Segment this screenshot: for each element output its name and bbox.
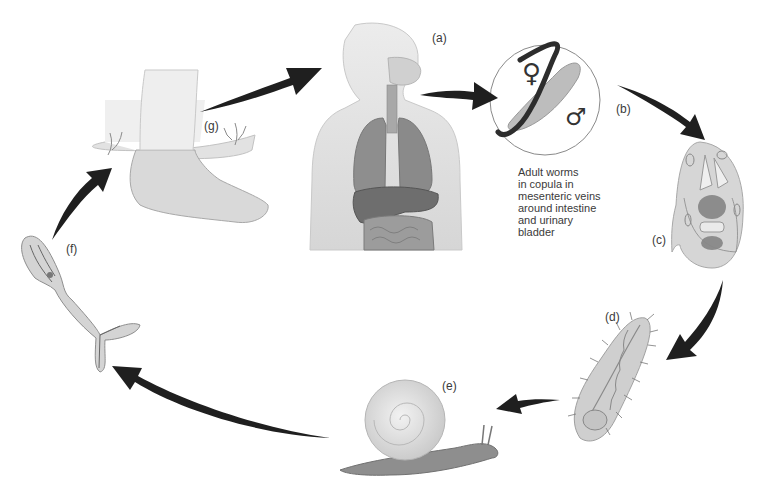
stage-label-a: (a): [432, 32, 447, 44]
stage-label-f: (f): [66, 243, 77, 255]
adult-worms-caption: Adult worms in copula in mesenteric vein…: [518, 166, 638, 238]
caption-line: bladder: [518, 226, 638, 238]
arrow-f-to-g: [52, 168, 112, 240]
arrow-c-to-d: [666, 280, 723, 360]
adult-worms-figure: ♀ ♂: [490, 44, 600, 155]
caption-line: in copula in: [518, 178, 638, 190]
cercaria-figure: [22, 236, 140, 372]
egg-figure: [672, 142, 744, 268]
stage-label-e: (e): [442, 380, 457, 392]
arrow-g-to-a: [200, 68, 322, 112]
caption-line: and urinary: [518, 214, 638, 226]
life-cycle-diagram: ♀ ♂: [0, 0, 762, 492]
female-symbol-icon: ♀: [522, 58, 541, 88]
foot-in-water-figure: [93, 70, 269, 223]
stage-label-b: (b): [616, 103, 631, 115]
male-symbol-icon: ♂: [565, 103, 587, 131]
human-host-figure: [310, 23, 462, 250]
arrow-a-to-b: [420, 82, 498, 110]
stage-label-d: (d): [605, 311, 620, 323]
caption-line: mesenteric veins: [518, 190, 638, 202]
arrow-d-to-e: [496, 394, 560, 414]
stage-label-c: (c): [652, 234, 666, 246]
caption-line: around intestine: [518, 202, 638, 214]
caption-line: Adult worms: [518, 166, 638, 178]
snail-figure: [340, 380, 498, 475]
stage-label-g: (g): [204, 120, 219, 132]
miracidium-figure: [568, 312, 658, 441]
arrow-e-to-f: [112, 366, 330, 438]
